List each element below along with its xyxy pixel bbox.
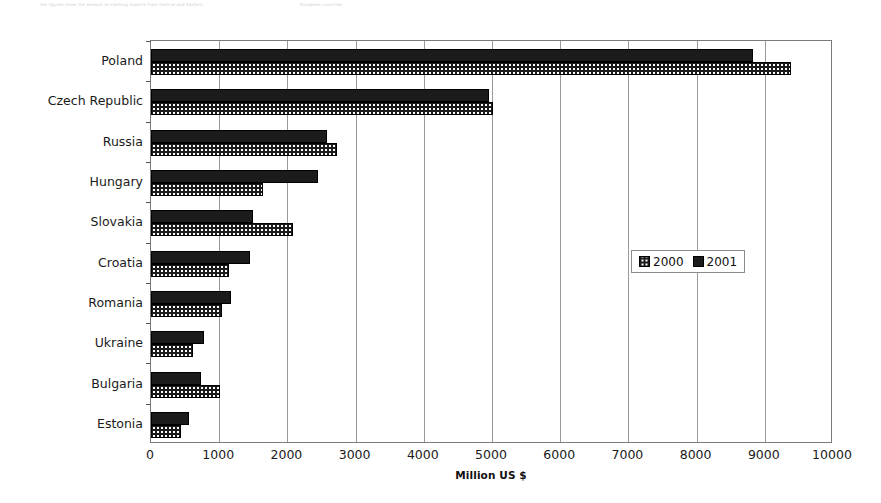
y-tick-mark <box>146 243 151 244</box>
bar-group <box>151 49 831 75</box>
y-tick-mark <box>146 323 151 324</box>
category-label-russia: Russia <box>3 134 143 149</box>
category-label-romania: Romania <box>3 295 143 310</box>
category-label-slovakia: Slovakia <box>3 214 143 229</box>
y-tick-mark <box>146 404 151 405</box>
x-tick-label-6000: 6000 <box>543 447 575 462</box>
x-tick-label-8000: 8000 <box>680 447 712 462</box>
bar-2001-croatia[interactable] <box>151 251 250 264</box>
bar-2000-romania[interactable] <box>151 304 222 317</box>
bar-group <box>151 170 831 196</box>
y-axis-category-labels: PolandCzech RepublicRussiaHungarySlovaki… <box>0 40 143 443</box>
legend-entry-2001[interactable]: 2001 <box>693 256 738 268</box>
bar-2000-hungary[interactable] <box>151 183 263 196</box>
bar-group <box>151 89 831 115</box>
bar-2001-czech-republic[interactable] <box>151 89 489 102</box>
dotted-swatch-icon <box>639 256 650 267</box>
category-label-ukraine: Ukraine <box>3 335 143 350</box>
bar-2001-hungary[interactable] <box>151 170 318 183</box>
x-tick-label-9000: 9000 <box>748 447 780 462</box>
category-label-bulgaria: Bulgaria <box>3 376 143 391</box>
bar-rows <box>151 41 831 442</box>
bar-2001-bulgaria[interactable] <box>151 372 201 385</box>
category-label-poland: Poland <box>3 53 143 68</box>
bar-2001-estonia[interactable] <box>151 412 189 425</box>
bar-group <box>151 291 831 317</box>
bar-2000-bulgaria[interactable] <box>151 385 220 398</box>
x-axis-tick-labels: 0100020003000400050006000700080009000100… <box>150 447 832 467</box>
category-label-czech-republic: Czech Republic <box>3 93 143 108</box>
x-axis-title: Million US $ <box>150 469 832 481</box>
category-label-croatia: Croatia <box>3 255 143 270</box>
bar-group <box>151 210 831 236</box>
y-tick-mark <box>146 162 151 163</box>
y-tick-mark <box>146 122 151 123</box>
chart-legend[interactable]: 20002001 <box>631 250 745 273</box>
bar-group <box>151 130 831 156</box>
x-tick-label-0: 0 <box>146 447 154 462</box>
bar-2000-czech-republic[interactable] <box>151 102 493 115</box>
x-tick-label-3000: 3000 <box>339 447 371 462</box>
x-tick-label-10000: 10000 <box>812 447 852 462</box>
y-tick-mark <box>146 363 151 364</box>
bar-2000-poland[interactable] <box>151 62 791 75</box>
x-tick-label-1000: 1000 <box>202 447 234 462</box>
x-tick-label-7000: 7000 <box>611 447 643 462</box>
bar-2000-croatia[interactable] <box>151 264 229 277</box>
bar-2000-ukraine[interactable] <box>151 344 193 357</box>
bar-2000-estonia[interactable] <box>151 425 181 438</box>
x-tick-label-4000: 4000 <box>407 447 439 462</box>
legend-label-2001: 2001 <box>707 256 738 268</box>
solid-swatch-icon <box>693 256 704 267</box>
bar-2001-slovakia[interactable] <box>151 210 253 223</box>
plot-area <box>150 40 832 443</box>
bar-2001-romania[interactable] <box>151 291 231 304</box>
bar-2001-ukraine[interactable] <box>151 331 204 344</box>
bar-group <box>151 372 831 398</box>
y-tick-mark <box>146 202 151 203</box>
x-tick-label-2000: 2000 <box>270 447 302 462</box>
bar-group <box>151 412 831 438</box>
y-tick-mark <box>146 283 151 284</box>
bar-chart-figure: PolandCzech RepublicRussiaHungarySlovaki… <box>0 0 881 503</box>
bar-2001-poland[interactable] <box>151 49 753 62</box>
x-tick-label-5000: 5000 <box>475 447 507 462</box>
bar-2000-russia[interactable] <box>151 143 337 156</box>
legend-label-2000: 2000 <box>653 256 684 268</box>
category-label-hungary: Hungary <box>3 174 143 189</box>
bar-2000-slovakia[interactable] <box>151 223 293 236</box>
y-tick-mark <box>146 41 151 42</box>
legend-entry-2000[interactable]: 2000 <box>639 256 684 268</box>
bar-2001-russia[interactable] <box>151 130 327 143</box>
y-tick-mark <box>146 81 151 82</box>
category-label-estonia: Estonia <box>3 416 143 431</box>
bar-group <box>151 331 831 357</box>
